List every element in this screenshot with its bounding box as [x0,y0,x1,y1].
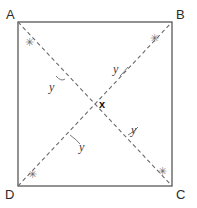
angle-mark-d-icon: ✳ [28,169,37,180]
angle-mark-a-icon: ✳ [25,37,34,48]
angle-label-upper-right: y [113,63,118,75]
arc-upper-left [56,76,65,80]
arc-upper-right [120,67,128,76]
vertex-label-a: A [6,8,15,21]
angle-label-upper-left: y [49,81,54,93]
vertex-label-c: C [176,188,185,201]
geometry-figure: A B C D ✳ ✳ ✳ ✳ y y y y x [0,0,197,208]
center-angle-label: x [99,99,105,110]
angle-mark-b-icon: ✳ [150,33,159,44]
angle-mark-c-icon: ✳ [158,166,167,177]
vertex-label-b: B [176,8,185,21]
angle-label-lower-left: y [79,141,84,153]
angle-label-lower-right: y [131,124,136,136]
vertex-label-d: D [5,188,14,201]
